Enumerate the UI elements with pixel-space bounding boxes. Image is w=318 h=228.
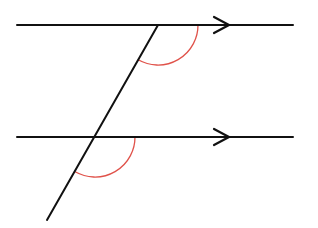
transversal-line (47, 25, 158, 220)
lower-angle-arc (75, 137, 135, 177)
parallel-lines-diagram (0, 0, 318, 228)
